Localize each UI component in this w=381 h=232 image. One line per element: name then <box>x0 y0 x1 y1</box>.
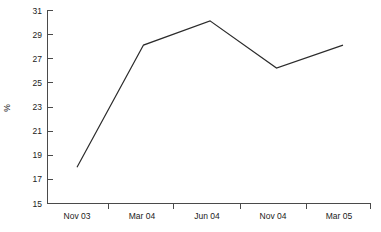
y-tick-marks <box>48 11 53 204</box>
line-chart-figure: 31 29 27 25 23 21 19 17 15 % Nov 03 Mar … <box>0 0 381 232</box>
x-tick-label: Nov 04 <box>260 211 287 221</box>
y-tick-label: 29 <box>33 30 43 40</box>
x-tick-label: Jun 04 <box>194 211 220 221</box>
x-tick-label: Nov 03 <box>64 211 91 221</box>
y-tick-label: 23 <box>33 102 43 112</box>
x-tick-marks <box>109 204 371 209</box>
y-tick-label: 17 <box>33 174 43 184</box>
y-tick-label: 15 <box>33 199 43 209</box>
x-tick-label: Mar 04 <box>129 211 156 221</box>
chart-canvas: 31 29 27 25 23 21 19 17 15 % Nov 03 Mar … <box>0 0 381 232</box>
y-tick-label: 27 <box>33 54 43 64</box>
y-tick-label: 25 <box>33 78 43 88</box>
y-tick-label: 21 <box>33 126 43 136</box>
x-tick-label: Mar 05 <box>326 211 353 221</box>
y-tick-label: 19 <box>33 150 43 160</box>
y-axis-title: % <box>2 104 12 112</box>
y-tick-label: 31 <box>33 6 43 16</box>
data-series-line <box>77 21 343 167</box>
